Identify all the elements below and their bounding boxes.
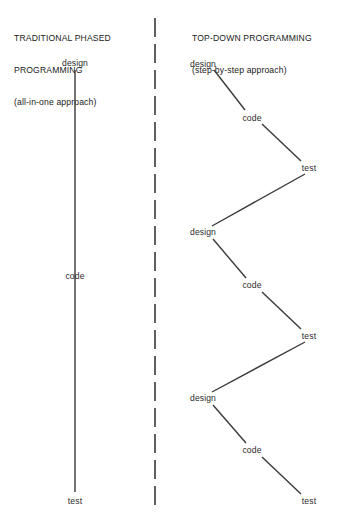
right-flow-segment-3: [213, 239, 246, 278]
left-node-design-0: design: [62, 58, 88, 68]
right-flow-segment-5: [212, 342, 305, 392]
right-node-design-3: design: [190, 227, 216, 237]
right-flow-segment-1: [262, 124, 301, 161]
right-node-test-8: test: [302, 496, 316, 506]
left-heading-line-1: TRADITIONAL PHASED: [14, 33, 111, 44]
diagram-canvas: TRADITIONAL PHASED PROGRAMMING (all-in-o…: [0, 0, 346, 520]
right-heading-line-1: TOP-DOWN PROGRAMMING: [192, 33, 312, 44]
left-node-code-1: code: [65, 271, 84, 281]
left-heading-subtitle: (all-in-one approach): [14, 97, 111, 108]
right-node-code-7: code: [242, 445, 261, 455]
right-node-test-2: test: [302, 163, 316, 173]
left-column-heading: TRADITIONAL PHASED PROGRAMMING (all-in-o…: [14, 12, 111, 129]
left-node-test-2: test: [68, 496, 82, 506]
right-column-heading: TOP-DOWN PROGRAMMING (step-by-step appro…: [192, 12, 312, 97]
right-node-code-4: code: [242, 280, 261, 290]
right-flow-segment-4: [262, 292, 301, 329]
right-flow-segment-6: [213, 405, 246, 443]
right-flow-segment-2: [212, 174, 305, 226]
right-flow-segment-7: [262, 457, 301, 494]
right-node-code-1: code: [242, 113, 261, 123]
right-node-test-5: test: [302, 331, 316, 341]
right-node-design-6: design: [190, 393, 216, 403]
right-node-design-0: design: [190, 59, 216, 69]
